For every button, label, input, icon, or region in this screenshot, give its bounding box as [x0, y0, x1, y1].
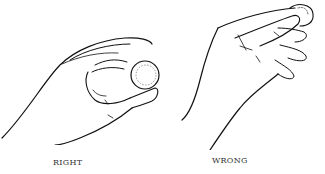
illustration-right-grip	[0, 20, 180, 145]
caption-right: RIGHT	[53, 158, 82, 167]
cropped-heading-text	[0, 0, 200, 2]
caption-wrong: WRONG	[212, 156, 248, 165]
illustration-wrong-grip	[180, 0, 325, 150]
